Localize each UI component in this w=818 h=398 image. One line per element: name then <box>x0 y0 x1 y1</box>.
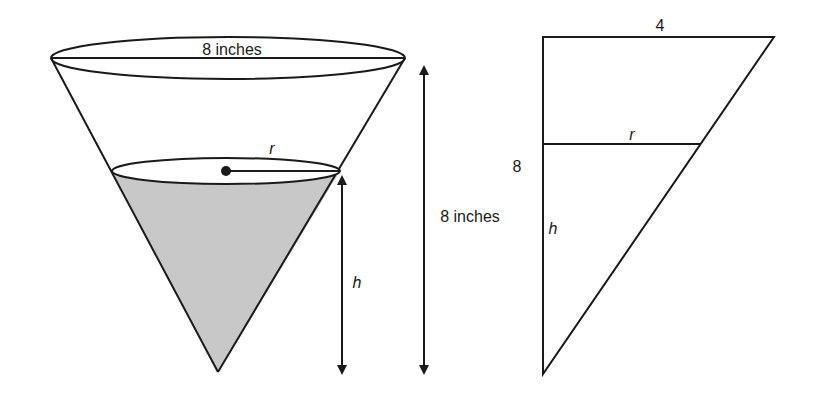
triangle-side-label: 8 <box>513 158 522 175</box>
water-height-label: h <box>353 274 362 291</box>
water-fill <box>112 171 340 372</box>
top-diameter-label: 8 inches <box>202 41 262 58</box>
triangle-figure: 4 r 8 h <box>513 17 774 374</box>
cone-height-label: 8 inches <box>440 208 500 225</box>
water-center-dot <box>221 166 231 176</box>
triangle-radius-label: r <box>629 126 635 143</box>
triangle-top-label: 4 <box>656 17 665 34</box>
right-triangle <box>543 37 774 374</box>
diagram-canvas: 8 inches r h 8 inches 4 r 8 h <box>0 0 818 398</box>
triangle-height-label: h <box>549 220 558 237</box>
water-radius-label: r <box>269 140 275 157</box>
cone-figure: 8 inches r h 8 inches <box>51 37 500 372</box>
